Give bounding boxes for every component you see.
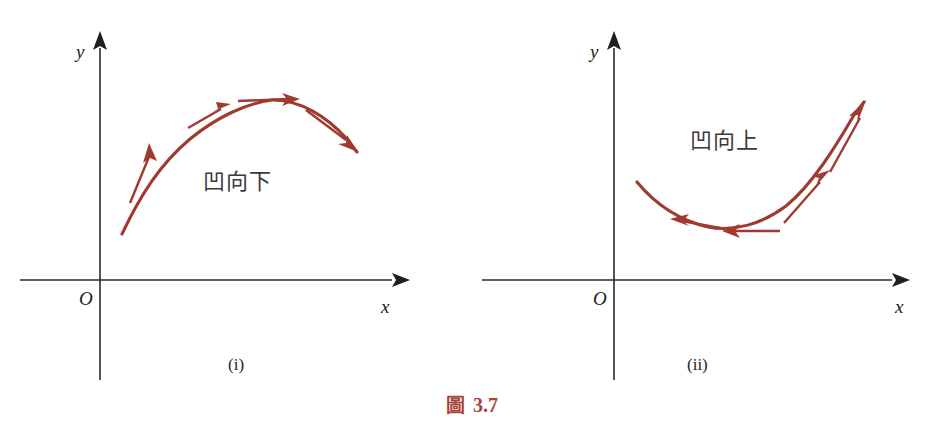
concave-up-curve [637,102,864,228]
x-axis-label: x [381,297,389,316]
origin-label: O [79,289,93,308]
panel-sublabel-ii: (ii) [687,355,708,375]
concave-up-plot [472,0,944,446]
tangent-arrow-4 [306,110,358,152]
panel-concave-up: y x O 凹向上 (ii) [472,0,944,446]
tangent-arrow-4 [830,100,866,172]
concavity-label-down: 凹向下 [203,163,272,195]
y-axis-label: y [76,42,84,61]
figure-caption-word: 圖 [446,394,465,416]
figure-3-7: y x O 凹向下 (i) [0,0,944,446]
concavity-label-up: 凹向上 [690,122,759,154]
x-axis-arrowhead-icon [892,273,910,287]
panel-sublabel-i: (i) [228,355,244,375]
y-axis-arrowhead-icon [607,31,621,50]
x-axis-label: x [895,297,903,316]
y-axis-label: y [590,42,598,61]
origin-label: O [593,289,607,308]
tangent-arrow-2 [722,224,780,238]
panel-concave-down: y x O 凹向下 (i) [0,0,472,446]
concave-down-plot [0,0,472,446]
x-axis-arrowhead-icon [392,273,410,287]
figure-caption-number: 3.7 [473,394,498,416]
tangent-arrow-3 [238,93,300,106]
y-axis-arrowhead-icon [93,31,107,50]
figure-caption: 圖3.7 [0,390,944,417]
tangent-arrow-3 [784,170,830,223]
